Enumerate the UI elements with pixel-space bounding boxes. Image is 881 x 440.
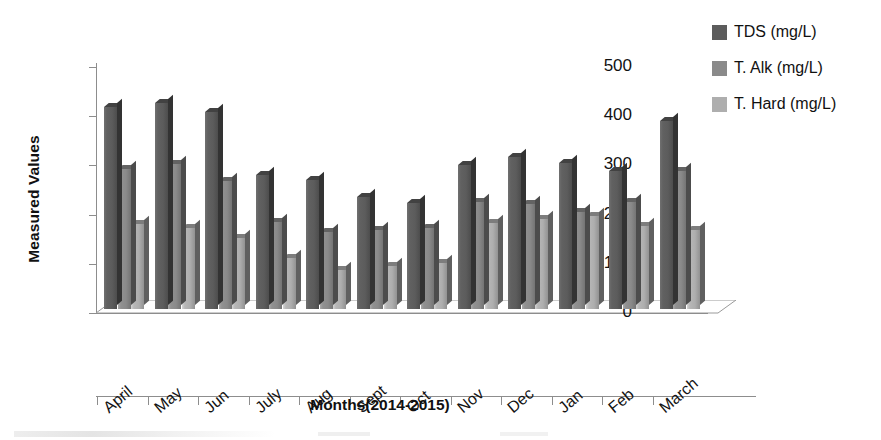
bar-face bbox=[357, 197, 370, 309]
bar-side bbox=[572, 155, 577, 305]
bar-side bbox=[622, 163, 627, 305]
y-tick bbox=[89, 116, 97, 117]
bar-side bbox=[232, 173, 237, 305]
scan-artifact bbox=[500, 432, 548, 436]
scan-artifact bbox=[318, 432, 370, 436]
legend-label: T. Hard (mg/L) bbox=[734, 95, 836, 113]
bar bbox=[104, 107, 117, 309]
legend-item: T. Hard (mg/L) bbox=[712, 86, 877, 122]
bar-face bbox=[104, 107, 117, 309]
bar-side bbox=[117, 99, 122, 305]
bar-side bbox=[535, 196, 540, 305]
bar-face bbox=[155, 103, 168, 309]
bar-side bbox=[319, 171, 324, 305]
bar-side bbox=[649, 218, 654, 305]
plot-area: 0100200300400500 AprilMayJunJulyAugSeptO… bbox=[96, 67, 736, 313]
bar-face bbox=[256, 175, 269, 309]
bar bbox=[357, 197, 370, 309]
bar bbox=[205, 112, 218, 309]
y-tick bbox=[89, 313, 97, 314]
x-tick bbox=[97, 396, 98, 405]
bar-side bbox=[144, 216, 149, 305]
bar-side bbox=[673, 113, 678, 305]
y-tick bbox=[89, 264, 97, 265]
bar-side bbox=[599, 207, 604, 305]
y-tick-label: 400 bbox=[572, 106, 632, 123]
bar-side bbox=[471, 157, 476, 305]
bar-side bbox=[498, 215, 503, 305]
bar-side bbox=[282, 214, 287, 305]
x-axis-title: Months(2014-2015) bbox=[120, 396, 640, 414]
legend-swatch-icon bbox=[712, 97, 727, 112]
bar-side bbox=[420, 195, 425, 305]
y-tick bbox=[89, 165, 97, 166]
bar-side bbox=[383, 222, 388, 305]
bar-side bbox=[484, 194, 489, 305]
bar-face bbox=[407, 203, 420, 309]
x-tick bbox=[653, 396, 654, 405]
bar-side bbox=[686, 163, 691, 305]
bar-side bbox=[548, 211, 553, 305]
bar-side bbox=[370, 189, 375, 305]
scan-artifact bbox=[14, 431, 276, 437]
bar bbox=[609, 171, 622, 309]
bar-face bbox=[660, 121, 673, 309]
bar-face bbox=[609, 171, 622, 309]
legend-item: TDS (mg/L) bbox=[712, 14, 877, 50]
bar-side bbox=[346, 261, 351, 305]
bar bbox=[660, 121, 673, 309]
y-tick bbox=[89, 67, 97, 68]
bar bbox=[458, 165, 471, 309]
bar-side bbox=[333, 224, 338, 305]
bar-face bbox=[306, 180, 319, 309]
bar-side bbox=[397, 258, 402, 305]
legend-label: T. Alk (mg/L) bbox=[734, 59, 823, 77]
bar-side bbox=[245, 229, 250, 305]
bar bbox=[306, 180, 319, 309]
bar-side bbox=[168, 95, 173, 305]
legend-item: T. Alk (mg/L) bbox=[712, 50, 877, 86]
y-axis-title: Measured Values bbox=[25, 104, 43, 294]
y-axis-line bbox=[96, 63, 97, 313]
y-tick-label: 500 bbox=[572, 57, 632, 74]
bar bbox=[508, 157, 521, 309]
bar-side bbox=[296, 250, 301, 305]
y-tick bbox=[89, 215, 97, 216]
bar-side bbox=[269, 166, 274, 305]
bar-face bbox=[508, 157, 521, 309]
bar-side bbox=[218, 104, 223, 305]
bar bbox=[559, 163, 572, 309]
bar bbox=[256, 175, 269, 309]
bar-side bbox=[521, 149, 526, 305]
bar bbox=[407, 203, 420, 309]
legend-label: TDS (mg/L) bbox=[734, 23, 817, 41]
bar-face bbox=[458, 165, 471, 309]
bar-side bbox=[195, 220, 200, 305]
bar-chart: Measured Values 0100200300400500 AprilMa… bbox=[0, 0, 881, 440]
bar-side bbox=[447, 255, 452, 305]
chart-legend: TDS (mg/L)T. Alk (mg/L)T. Hard (mg/L) bbox=[712, 14, 877, 122]
bar-side bbox=[585, 203, 590, 305]
bar-face bbox=[559, 163, 572, 309]
bar-face bbox=[205, 112, 218, 309]
bar bbox=[155, 103, 168, 309]
bar-side bbox=[434, 220, 439, 305]
bar-side bbox=[181, 156, 186, 305]
bar-side bbox=[131, 161, 136, 305]
bar-side bbox=[700, 222, 705, 305]
bar-side bbox=[636, 194, 641, 305]
legend-swatch-icon bbox=[712, 25, 727, 40]
legend-swatch-icon bbox=[712, 61, 727, 76]
